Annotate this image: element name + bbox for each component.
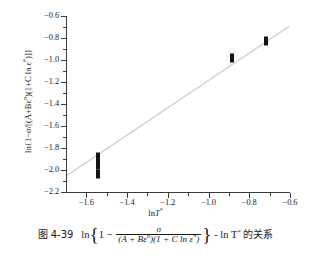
y-tick-major [61, 170, 66, 171]
x-tick-minor [270, 193, 271, 196]
x-tick-minor [107, 193, 108, 196]
caption-tail: - ln T* [214, 229, 241, 240]
y-tick-label: −2.2 [44, 188, 59, 196]
y-tick-label: −0.6 [44, 12, 59, 20]
y-tick-minor [63, 27, 66, 28]
x-tick-label: −1.0 [201, 199, 216, 207]
x-axis-title: lnT* [0, 208, 311, 218]
y-tick-major [61, 126, 66, 127]
figure-4-39: −0.6−0.8−1.0−1.2−1.4−1.6−1.8−2.0−2.2 −1.… [0, 0, 311, 259]
x-tick-label: −1.2 [160, 199, 175, 207]
y-tick-minor [63, 93, 66, 94]
y-tick-minor [63, 159, 66, 160]
y-tick-label: −1.2 [44, 78, 59, 86]
y-axis-spine [66, 16, 67, 193]
caption-one: 1 [99, 229, 104, 240]
x-axis-spine [66, 192, 290, 193]
y-tick-minor [63, 137, 66, 138]
y-tick-major [61, 148, 66, 149]
y-tick-minor [63, 181, 66, 182]
figure-caption: 图 4-39 ln{1 − σ(A + Bεn)(1 + C ln ε̇*)} … [0, 225, 311, 245]
y-axis-title: ln{1−σ/[(A+Bεn)(1+C ln ε̇*)]} [23, 11, 33, 191]
caption-denominator: (A + Bεn)(1 + C ln ε̇*) [116, 234, 201, 245]
y-tick-major [61, 16, 66, 17]
y-tick-label: −1.0 [44, 56, 59, 64]
data-point-marker [230, 54, 234, 63]
x-tick-minor [147, 193, 148, 196]
y-tick-major [61, 192, 66, 193]
y-tick-label: −1.8 [44, 144, 59, 152]
data-point-marker [96, 161, 100, 170]
x-tick-label: −1.4 [120, 199, 135, 207]
y-tick-label: −1.4 [44, 100, 59, 108]
y-tick-major [61, 60, 66, 61]
y-tick-label: −1.6 [44, 122, 59, 130]
y-tick-major [61, 104, 66, 105]
caption-open-brace: { [89, 229, 98, 241]
x-tick-label: −0.6 [283, 199, 298, 207]
y-tick-minor [63, 49, 66, 50]
x-tick-label: −1.6 [79, 199, 94, 207]
caption-numerator: σ [116, 225, 201, 235]
caption-close-brace: } [202, 229, 211, 241]
y-tick-major [61, 38, 66, 39]
y-tick-label: −0.8 [44, 34, 59, 42]
x-tick-minor [229, 193, 230, 196]
caption-fraction: σ(A + Bεn)(1 + C ln ε̇*) [116, 225, 201, 245]
x-tick-minor [188, 193, 189, 196]
data-point-marker [96, 169, 100, 178]
y-axis-title-text: ln{1−σ/[(A+Bεn)(1+C ln ε̇*)]} [23, 49, 33, 153]
plot-area: −0.6−0.8−1.0−1.2−1.4−1.6−1.8−2.0−2.2 −1.… [0, 0, 311, 222]
y-tick-minor [63, 115, 66, 116]
x-tick-label: −0.8 [242, 199, 257, 207]
y-tick-minor [63, 71, 66, 72]
caption-number: 图 4-39 [38, 229, 74, 240]
caption-ln: ln [81, 229, 89, 240]
y-tick-major [61, 82, 66, 83]
x-axis-title-star: * [160, 207, 163, 213]
caption-suffix: 的关系 [243, 229, 273, 240]
y-tick-label: −2.0 [44, 166, 59, 174]
caption-minus: − [107, 229, 113, 240]
data-point-marker [264, 36, 268, 45]
